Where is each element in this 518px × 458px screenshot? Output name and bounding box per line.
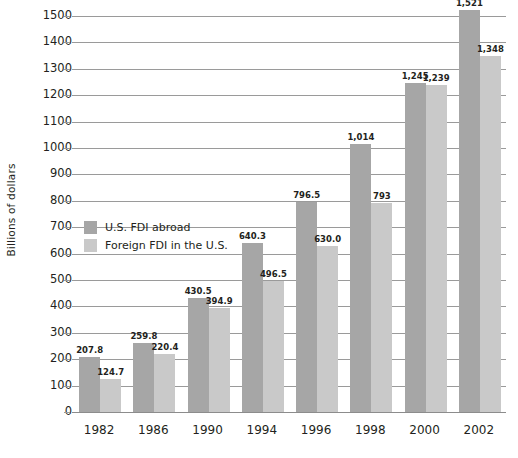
bar-chart: Billions of dollars 01002003004005006007…	[0, 0, 518, 458]
bar-value-label: 124.7	[91, 368, 130, 377]
x-axis-tick-label: 1990	[181, 423, 235, 437]
bar-value-label: 640.3	[233, 232, 272, 241]
y-axis-tick-mark	[64, 359, 70, 360]
bar-value-label: 207.8	[70, 346, 109, 355]
x-axis-tick-label: 2000	[398, 423, 452, 437]
bar	[209, 308, 230, 412]
y-axis-tick-mark	[64, 227, 70, 228]
y-axis-tick-mark	[64, 122, 70, 123]
plot-area: 207.8124.7259.8220.4430.5394.9640.3496.5…	[72, 16, 506, 412]
bar	[100, 379, 121, 412]
bar	[154, 354, 175, 412]
bar-value-label: 1,239	[417, 74, 456, 83]
legend-label: U.S. FDI abroad	[105, 221, 191, 234]
y-axis-tick-mark	[64, 280, 70, 281]
x-axis-tick-label: 1996	[289, 423, 343, 437]
bar-group: 207.8124.7	[79, 16, 121, 412]
bar-value-label: 430.5	[179, 287, 218, 296]
chart-legend: U.S. FDI abroadForeign FDI in the U.S.	[84, 219, 228, 255]
legend-item: Foreign FDI in the U.S.	[84, 237, 228, 253]
bar-value-label: 1,348	[471, 45, 510, 54]
bar	[263, 281, 284, 412]
bar	[79, 357, 100, 412]
bar	[188, 298, 209, 412]
y-axis-tick-mark	[64, 412, 70, 413]
y-axis-tick-mark	[64, 42, 70, 43]
y-axis-tick-mark	[64, 386, 70, 387]
bar-value-label: 259.8	[124, 332, 163, 341]
bar-group: 430.5394.9	[188, 16, 230, 412]
x-axis-tick-label: 1986	[126, 423, 180, 437]
bar-group: 796.5630.0	[296, 16, 338, 412]
bar	[405, 83, 426, 412]
bar-value-label: 796.5	[287, 191, 326, 200]
bar-value-label: 394.9	[200, 297, 239, 306]
x-axis-tick-label: 1998	[343, 423, 397, 437]
legend-item: U.S. FDI abroad	[84, 219, 228, 235]
bar-group: 1,014793	[350, 16, 392, 412]
y-axis-tick-labels: 0100200300400500600700800900100011001200…	[14, 16, 72, 412]
bar-value-label: 1,014	[341, 133, 380, 142]
bar	[317, 246, 338, 412]
bar-value-label: 1,521	[450, 0, 489, 8]
y-axis-tick-mark	[64, 201, 70, 202]
y-axis-tick-mark	[64, 69, 70, 70]
bar	[480, 56, 501, 412]
y-axis-tick-mark	[64, 306, 70, 307]
bar	[133, 343, 154, 412]
gridline	[72, 412, 506, 413]
y-axis-tick-mark	[64, 148, 70, 149]
y-axis-tick-mark	[64, 95, 70, 96]
x-axis-tick-labels: 19821986199019941996199820002002	[72, 414, 506, 444]
y-axis-tick-mark	[64, 333, 70, 334]
bar	[371, 203, 392, 412]
bar-group: 259.8220.4	[133, 16, 175, 412]
x-axis-tick-label: 2002	[452, 423, 506, 437]
bar-value-label: 793	[362, 192, 401, 201]
bar	[426, 85, 447, 412]
legend-swatch-icon	[84, 221, 97, 234]
y-axis-tick-mark	[64, 254, 70, 255]
bar	[459, 10, 480, 412]
legend-swatch-icon	[84, 239, 97, 252]
x-axis-tick-label: 1982	[72, 423, 126, 437]
x-axis-tick-label: 1994	[235, 423, 289, 437]
bar-group: 1,2451,239	[405, 16, 447, 412]
bar-group: 1,5211,348	[459, 16, 501, 412]
bar-value-label: 220.4	[145, 343, 184, 352]
legend-label: Foreign FDI in the U.S.	[105, 239, 228, 252]
y-axis-tick-mark	[64, 174, 70, 175]
bar-group: 640.3496.5	[242, 16, 284, 412]
bar-value-label: 496.5	[254, 270, 293, 279]
bar-value-label: 630.0	[308, 235, 347, 244]
bar	[350, 144, 371, 412]
y-axis-tick-mark	[64, 16, 70, 17]
